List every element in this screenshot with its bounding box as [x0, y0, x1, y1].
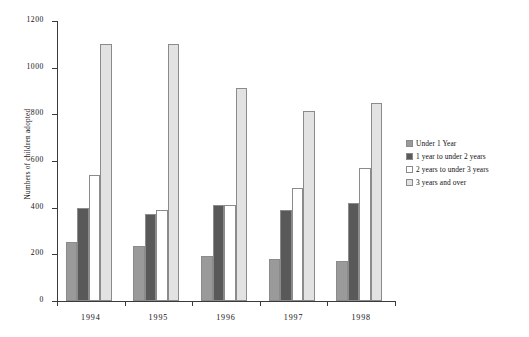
- y-axis-line: [57, 21, 58, 301]
- legend-item[interactable]: 3 years and over: [406, 178, 529, 188]
- x-axis-tick: [327, 301, 328, 306]
- bar-group: [269, 21, 315, 301]
- chart-legend: Under 1 Year1 year to under 2 years2 yea…: [406, 138, 529, 191]
- bar: [224, 205, 236, 301]
- bar: [201, 256, 213, 302]
- bar: [133, 246, 145, 301]
- x-axis-tick: [192, 301, 193, 306]
- legend-item-label: 2 years to under 3 years: [416, 165, 489, 174]
- legend-item[interactable]: Under 1 Year: [406, 138, 529, 148]
- legend-item[interactable]: 2 years to under 3 years: [406, 164, 529, 174]
- y-axis-tick-label: 1200: [26, 15, 44, 24]
- x-axis-tick: [260, 301, 261, 306]
- bar: [269, 259, 281, 301]
- bar-group: [201, 21, 247, 301]
- y-axis-tick: 800: [52, 114, 57, 115]
- y-axis-tick: 600: [52, 161, 57, 162]
- x-axis-category-label: 1995: [125, 313, 193, 322]
- bar: [77, 208, 89, 301]
- legend-swatch-icon: [406, 179, 413, 186]
- bar: [371, 103, 383, 301]
- legend-item-label: Under 1 Year: [416, 139, 456, 148]
- bar: [359, 168, 371, 301]
- bar: [280, 210, 292, 301]
- bar-group: [133, 21, 179, 301]
- legend-item[interactable]: 1 year to under 2 years: [406, 151, 529, 161]
- y-axis-tick-label: 600: [31, 155, 44, 164]
- legend-item-label: 1 year to under 2 years: [416, 152, 486, 161]
- bar: [66, 242, 78, 302]
- legend-item-label: 3 years and over: [416, 178, 466, 187]
- bar: [168, 44, 180, 301]
- x-axis-category-label: 1997: [260, 313, 328, 322]
- legend-swatch-icon: [406, 153, 413, 160]
- x-axis-tick: [395, 301, 396, 306]
- y-axis-title: Numbers of children adopted: [24, 64, 32, 244]
- bar-group: [336, 21, 382, 301]
- legend-swatch-icon: [406, 166, 413, 173]
- plot-area: 0200400600800100012001994199519961997199…: [57, 21, 395, 301]
- bar-chart: Numbers of children adopted 020040060080…: [0, 0, 529, 337]
- bar: [89, 175, 101, 301]
- y-axis-tick-label: 0: [40, 295, 44, 304]
- y-axis-tick-label: 800: [31, 108, 44, 117]
- y-axis-tick: 1200: [52, 21, 57, 22]
- y-axis-tick-label: 1000: [26, 62, 44, 71]
- bar: [303, 111, 315, 301]
- bar-group: [66, 21, 112, 301]
- y-axis-tick: 1000: [52, 68, 57, 69]
- y-axis-tick-label: 200: [31, 248, 44, 257]
- y-axis-tick: 200: [52, 254, 57, 255]
- x-axis-line: [57, 301, 396, 302]
- y-axis-tick-label: 400: [31, 202, 44, 211]
- bar: [100, 44, 112, 301]
- bar: [145, 214, 157, 301]
- bar: [348, 203, 360, 301]
- x-axis-tick: [57, 301, 58, 306]
- x-axis-category-label: 1996: [192, 313, 260, 322]
- bar: [336, 261, 348, 301]
- bar: [236, 88, 248, 302]
- y-axis-tick: 400: [52, 208, 57, 209]
- x-axis-tick: [125, 301, 126, 306]
- bar: [213, 205, 225, 301]
- x-axis-category-label: 1994: [57, 313, 125, 322]
- bar: [156, 210, 168, 301]
- x-axis-category-label: 1998: [327, 313, 395, 322]
- legend-swatch-icon: [406, 140, 413, 147]
- bar: [292, 188, 304, 301]
